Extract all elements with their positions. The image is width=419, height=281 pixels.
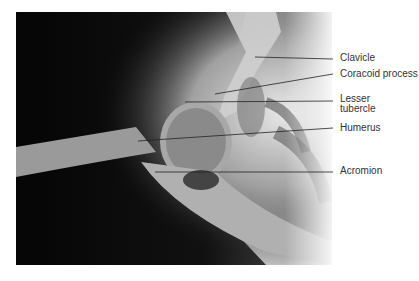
label-coracoid-process: Coracoid process (340, 69, 418, 79)
label-humerus: Humerus (340, 123, 381, 133)
leader-lines (0, 0, 419, 281)
leader-line-lesser-tubercle (185, 101, 333, 102)
leader-line-clavicle (255, 57, 333, 59)
leader-line-coracoid-process (215, 74, 333, 94)
label-acromion: Acromion (340, 166, 382, 176)
leader-line-humerus (138, 128, 333, 141)
label-clavicle: Clavicle (340, 53, 375, 63)
label-tubercle: tubercle (340, 104, 376, 114)
